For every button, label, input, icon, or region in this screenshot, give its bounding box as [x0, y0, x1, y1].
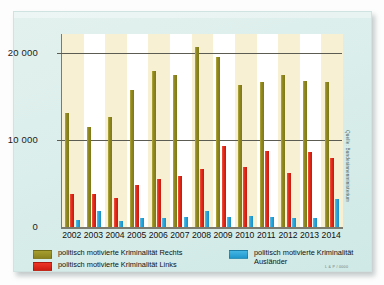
- bar-group: [62, 34, 84, 228]
- y-tick-label-10000: 10 000: [8, 134, 38, 145]
- bar-auslaender-2008: [205, 211, 209, 228]
- bar-rechts-2009: [216, 57, 220, 228]
- legend-item-rechts: politisch motivierte Kriminalität Rechts: [33, 249, 223, 259]
- bar-group: [127, 34, 149, 228]
- legend-label-auslaender-line2: Ausländer: [254, 257, 287, 266]
- bar-group: [235, 34, 257, 228]
- bar-links-2004: [114, 198, 118, 228]
- bar-group: [105, 34, 127, 228]
- bar-rechts-2006: [152, 71, 156, 228]
- bar-auslaender-2003: [97, 211, 101, 228]
- legend-column-left: politisch motivierte Kriminalität Rechts…: [33, 249, 223, 273]
- x-tick-label-2014: 2014: [317, 230, 345, 240]
- bar-links-2005: [135, 185, 139, 229]
- legend-swatch-links: [33, 262, 52, 271]
- bar-group: [321, 34, 343, 228]
- bar-links-2003: [92, 194, 96, 228]
- bar-links-2008: [200, 169, 204, 228]
- bar-rechts-2008: [195, 47, 199, 228]
- legend-swatch-rechts: [33, 250, 52, 259]
- bar-rechts-2012: [281, 75, 285, 228]
- bar-rechts-2013: [303, 81, 307, 228]
- bar-links-2012: [287, 173, 291, 228]
- source-credit: Quelle: Bundesinnenministerium: [345, 130, 350, 202]
- bar-group: [300, 34, 322, 228]
- bar-group: [170, 34, 192, 228]
- bar-rechts-2002: [65, 113, 69, 228]
- plot-area: [61, 34, 342, 228]
- imprint-code: L & P / 0000: [325, 265, 348, 269]
- bar-rechts-2005: [130, 90, 134, 228]
- bar-links-2014: [330, 158, 334, 228]
- legend-label-auslaender: politisch motivierte Kriminalität Auslän…: [254, 249, 353, 266]
- bar-rechts-2004: [108, 117, 112, 228]
- chart-page: 010 00020 000 20022003200420052006200720…: [0, 0, 384, 285]
- y-tick-label-0: 0: [33, 221, 38, 232]
- x-axis-line: [61, 227, 343, 229]
- bar-group: [278, 34, 300, 228]
- legend-item-links: politisch motivierte Kriminalität Links: [33, 261, 223, 271]
- legend-item-auslaender: politisch motivierte Kriminalität Auslän…: [229, 249, 369, 266]
- bar-rechts-2010: [238, 85, 242, 228]
- bar-links-2011: [265, 151, 269, 228]
- bar-group: [213, 34, 235, 228]
- bar-links-2002: [70, 194, 74, 228]
- bar-links-2013: [308, 152, 312, 228]
- bar-links-2009: [222, 146, 226, 228]
- bar-links-2006: [157, 179, 161, 228]
- bar-group: [192, 34, 214, 228]
- legend-label-links: politisch motivierte Kriminalität Links: [58, 261, 177, 270]
- bar-rechts-2003: [87, 127, 91, 228]
- bar-links-2007: [178, 176, 182, 228]
- legend-label-rechts: politisch motivierte Kriminalität Rechts: [58, 249, 182, 258]
- bar-rechts-2014: [325, 82, 329, 228]
- legend-swatch-auslaender: [229, 250, 248, 259]
- bar-group: [148, 34, 170, 228]
- bar-group: [84, 34, 106, 228]
- bar-links-2010: [243, 167, 247, 228]
- y-tick-label-20000: 20 000: [8, 47, 38, 58]
- bar-auslaender-2014: [335, 199, 339, 228]
- bar-rechts-2011: [260, 82, 264, 228]
- bar-rechts-2007: [173, 75, 177, 228]
- chart-card: 010 00020 000 20022003200420052006200720…: [13, 11, 372, 272]
- bar-group: [257, 34, 279, 228]
